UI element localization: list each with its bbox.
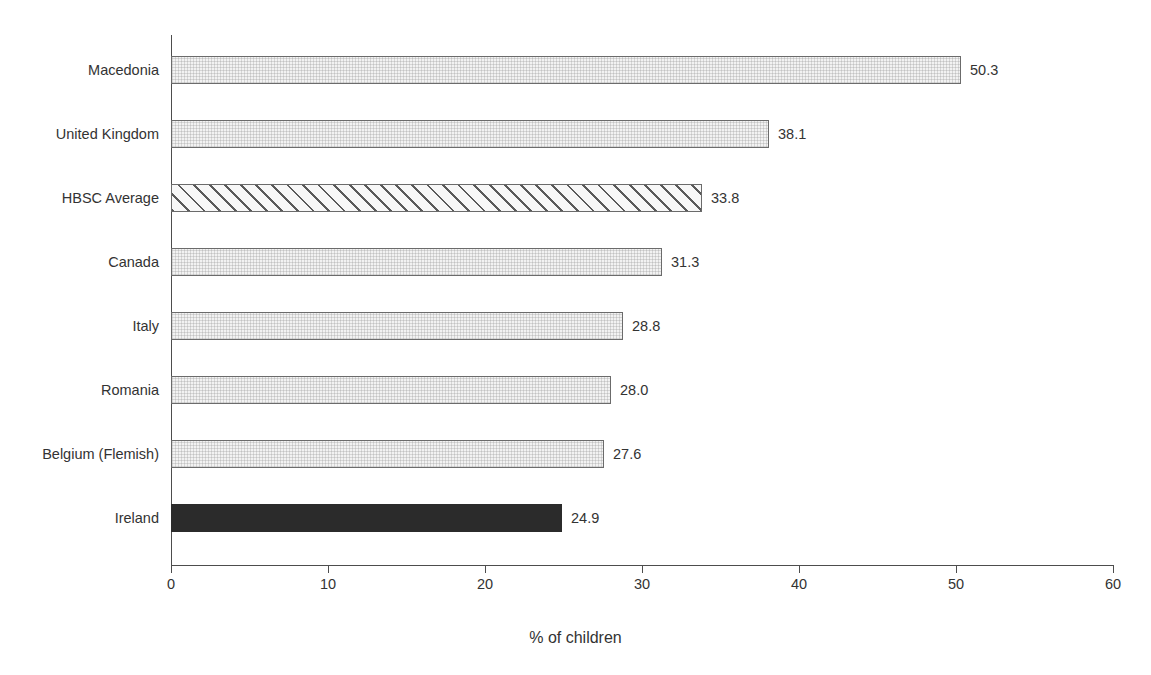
bar-row: Romania28.0 — [0, 376, 1151, 404]
x-tick-label: 60 — [1105, 576, 1121, 592]
bar-value-label: 38.1 — [778, 120, 806, 148]
bar-value-label: 28.8 — [632, 312, 660, 340]
x-tick-label: 50 — [948, 576, 964, 592]
y-axis-line — [171, 35, 172, 566]
x-tick-label: 20 — [477, 576, 493, 592]
bar-value-label: 28.0 — [620, 376, 648, 404]
bar-value-label: 33.8 — [711, 184, 739, 212]
bar-row: HBSC Average33.8 — [0, 184, 1151, 212]
x-tick-label: 30 — [634, 576, 650, 592]
bar-row: Ireland24.9 — [0, 504, 1151, 532]
bar-macedonia — [171, 56, 961, 84]
x-tick-mark — [171, 566, 172, 573]
x-tick-mark — [1113, 566, 1114, 573]
bar-belgium-flemish — [171, 440, 604, 468]
bar-value-label: 31.3 — [671, 248, 699, 276]
bar-value-label: 24.9 — [571, 504, 599, 532]
category-label: United Kingdom — [56, 120, 159, 148]
category-label: Belgium (Flemish) — [42, 440, 159, 468]
x-tick-label: 0 — [167, 576, 175, 592]
x-tick-mark — [485, 566, 486, 573]
bar-ireland — [171, 504, 562, 532]
x-tick-mark — [956, 566, 957, 573]
x-tick-label: 40 — [791, 576, 807, 592]
category-label: Macedonia — [88, 56, 159, 84]
bar-romania — [171, 376, 611, 404]
bar-united-kingdom — [171, 120, 769, 148]
bar-row: Macedonia50.3 — [0, 56, 1151, 84]
bar-hbsc-average — [171, 184, 702, 212]
x-tick-label: 10 — [320, 576, 336, 592]
category-label: Ireland — [115, 504, 159, 532]
bar-row: Canada31.3 — [0, 248, 1151, 276]
category-label: HBSC Average — [62, 184, 159, 212]
x-axis-title: % of children — [0, 629, 1151, 647]
bar-row: United Kingdom38.1 — [0, 120, 1151, 148]
category-label: Romania — [101, 376, 159, 404]
bar-row: Belgium (Flemish)27.6 — [0, 440, 1151, 468]
category-label: Canada — [108, 248, 159, 276]
x-tick-mark — [328, 566, 329, 573]
x-tick-mark — [799, 566, 800, 573]
bar-value-label: 50.3 — [970, 56, 998, 84]
bar-canada — [171, 248, 662, 276]
bar-chart: Macedonia50.3United Kingdom38.1HBSC Aver… — [0, 0, 1151, 675]
bar-row: Italy28.8 — [0, 312, 1151, 340]
chart-title-remnant — [170, 0, 185, 8]
category-label: Italy — [132, 312, 159, 340]
bar-italy — [171, 312, 623, 340]
x-tick-mark — [642, 566, 643, 573]
bar-value-label: 27.6 — [613, 440, 641, 468]
